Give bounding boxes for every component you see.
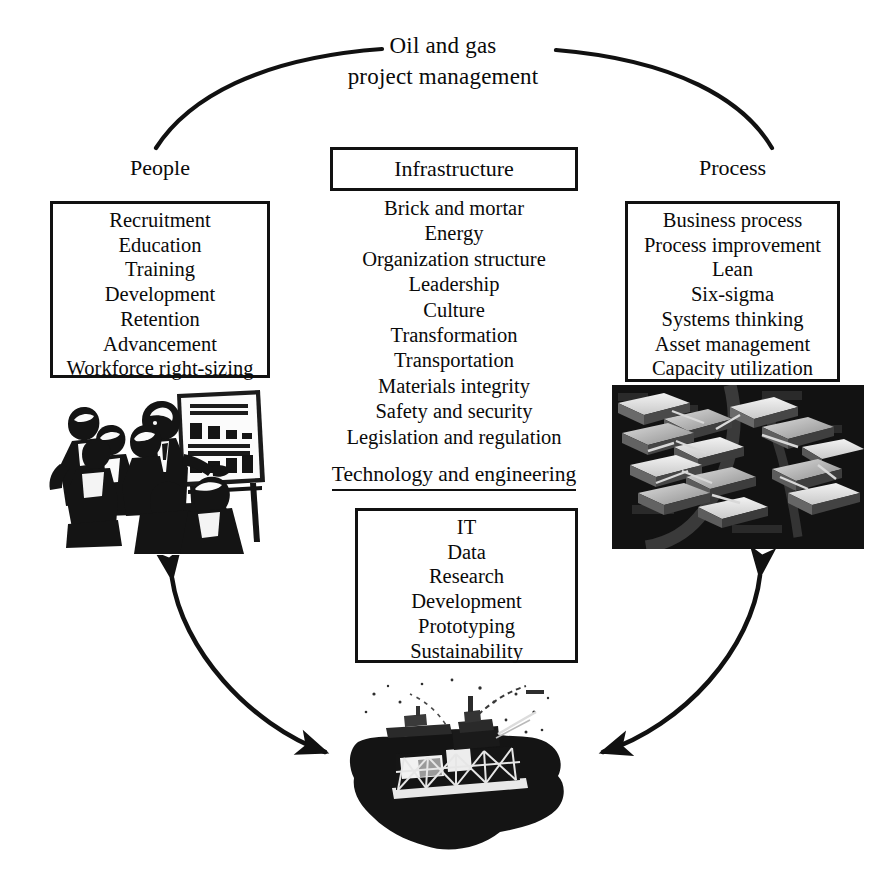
infrastructure-header-box: Infrastructure — [330, 147, 578, 191]
list-item: Business process — [634, 208, 831, 233]
list-item: Legislation and regulation — [313, 425, 595, 450]
people-list-box: Recruitment Education Training Developme… — [50, 201, 270, 378]
list-item: Education — [59, 233, 261, 258]
list-item: Lean — [634, 257, 831, 282]
list-item: Workforce right-sizing — [59, 356, 261, 381]
list-item: Energy — [313, 221, 595, 246]
list-item: Prototyping — [364, 614, 569, 639]
list-item: Recruitment — [59, 208, 261, 233]
diagram-title: Oil and gas project management — [293, 30, 593, 92]
list-item: IT — [364, 515, 569, 540]
technology-list-box: IT Data Research Development Prototyping… — [355, 508, 578, 663]
diagram-title-line-1: Oil and gas — [293, 30, 593, 61]
list-item: Asset management — [634, 332, 831, 357]
technology-heading: Technology and engineering — [330, 462, 578, 491]
offshore-oil-platform-image — [330, 672, 587, 864]
people-training-presentation-image — [38, 386, 270, 555]
industrial-facility-aerial-image — [612, 385, 864, 549]
list-item: Research — [364, 564, 569, 589]
pillar-label-process: Process — [625, 155, 840, 181]
list-item: Development — [59, 282, 261, 307]
list-item: Transportation — [313, 348, 595, 373]
list-item: Culture — [313, 298, 595, 323]
list-item: Development — [364, 589, 569, 614]
list-item: Leadership — [313, 272, 595, 297]
list-item: Retention — [59, 307, 261, 332]
left-double-arrow — [172, 578, 325, 752]
list-item: Materials integrity — [313, 374, 595, 399]
list-item: Organization structure — [313, 247, 595, 272]
pillar-label-people: People — [50, 155, 270, 181]
list-item: Transformation — [313, 323, 595, 348]
diagram-title-line-2: project management — [293, 61, 593, 92]
infrastructure-list: Brick and mortar Energy Organization str… — [313, 196, 595, 450]
list-item: Advancement — [59, 332, 261, 357]
list-item: Six-sigma — [634, 282, 831, 307]
diagram-canvas: Oil and gas project management People Re… — [0, 0, 886, 888]
list-item: Sustainability — [364, 639, 569, 664]
right-double-arrow — [603, 575, 760, 752]
infrastructure-label: Infrastructure — [394, 156, 514, 182]
list-item: Data — [364, 540, 569, 565]
list-item: Safety and security — [313, 399, 595, 424]
technology-label: Technology and engineering — [332, 462, 576, 491]
list-item: Process improvement — [634, 233, 831, 258]
process-list-box: Business process Process improvement Lea… — [625, 201, 840, 382]
list-item: Systems thinking — [634, 307, 831, 332]
list-item: Brick and mortar — [313, 196, 595, 221]
list-item: Training — [59, 257, 261, 282]
list-item: Capacity utilization — [634, 356, 831, 381]
